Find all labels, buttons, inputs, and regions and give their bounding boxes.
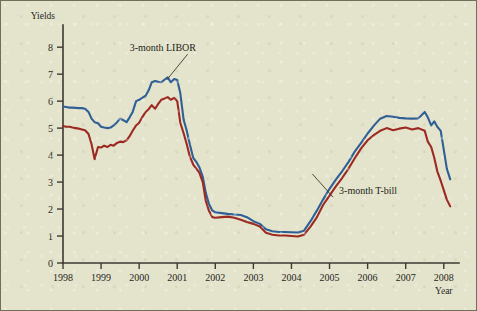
y-tick-label: 7 [48,69,53,80]
y-tick-label: 6 [48,96,53,107]
chart-figure: 012345678Yields1998199920002001200220032… [0,0,477,311]
x-tick-label: 2004 [281,272,301,283]
y-tick-label: 3 [48,177,53,188]
x-tick-label: 2002 [205,272,225,283]
x-tick-label: 2006 [358,272,378,283]
yield-curve-chart: 012345678Yields1998199920002001200220032… [1,1,477,311]
x-tick-label: 2008 [434,272,454,283]
y-axis-title: Yields [31,11,56,21]
x-tick-label: 2007 [396,272,416,283]
annotation-leader-tbill [312,174,333,197]
x-axis-title: Year [435,286,453,296]
x-tick-label: 2003 [243,272,263,283]
x-tick-label: 1999 [91,272,111,283]
x-tick-label: 2000 [129,272,149,283]
y-tick-label: 8 [48,42,53,53]
series-line-libor [63,77,450,232]
y-tick-label: 2 [48,204,53,215]
x-tick-label: 2005 [320,272,340,283]
y-tick-label: 0 [48,258,53,269]
annotation-label-libor: 3-month LIBOR [130,42,197,53]
annotation-label-tbill: 3-month T-bill [339,185,397,196]
x-tick-label: 1998 [53,272,73,283]
y-tick-label: 5 [48,123,53,134]
y-tick-label: 4 [48,150,53,161]
annotation-leader-libor [167,54,188,80]
x-tick-label: 2001 [167,272,187,283]
y-tick-label: 1 [48,231,53,242]
